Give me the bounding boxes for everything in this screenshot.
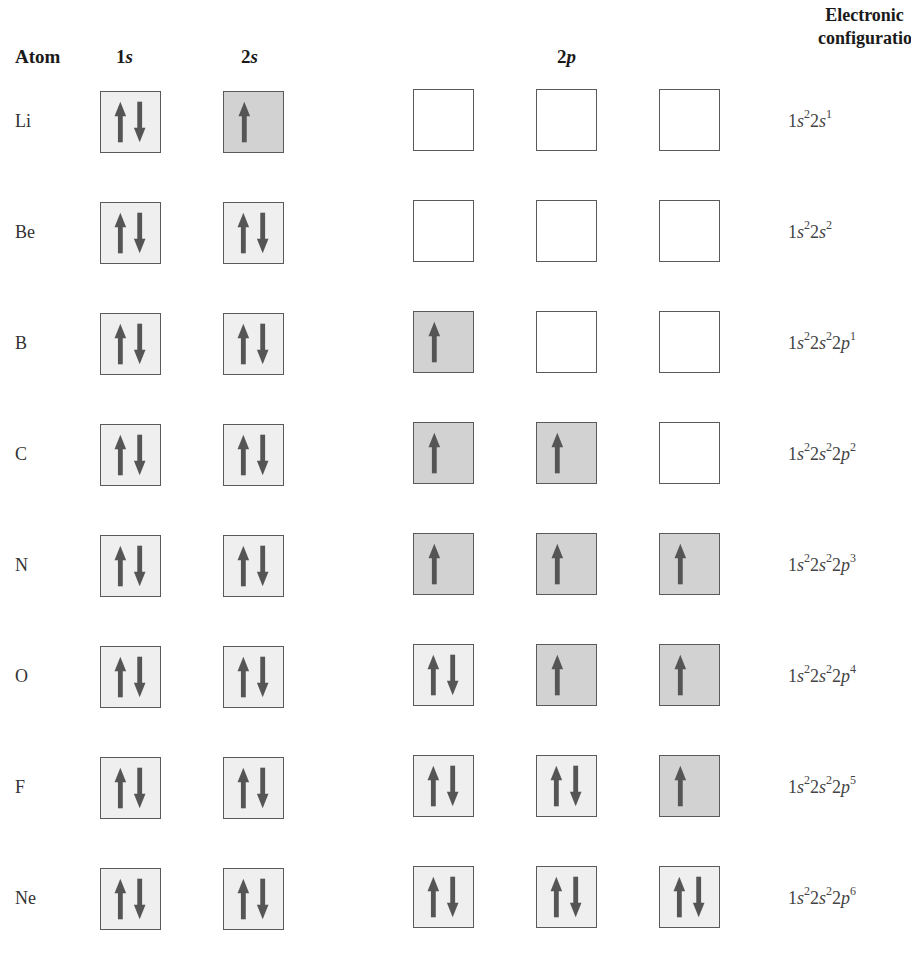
config-electron-count: 2 bbox=[804, 551, 810, 565]
spin-pair-arrows-icon bbox=[537, 756, 596, 816]
config-electron-count: 2 bbox=[850, 440, 856, 454]
orbital-box-2s bbox=[223, 424, 284, 486]
config-shell-number: 1 bbox=[788, 444, 797, 464]
spin-up-arrow-icon bbox=[537, 534, 596, 594]
orbital-box-2s bbox=[223, 535, 284, 597]
orbital-box-2s bbox=[223, 868, 284, 930]
config-electron-count: 2 bbox=[804, 218, 810, 232]
spin-pair-arrows-icon bbox=[224, 758, 283, 818]
orbital-box-2p-y bbox=[536, 311, 597, 373]
spin-pair-arrows-icon bbox=[414, 645, 473, 705]
orbital-box-2p-y bbox=[536, 755, 597, 817]
orbital-box-2p-y bbox=[536, 422, 597, 484]
spin-pair-arrows-icon bbox=[414, 867, 473, 927]
config-electron-count: 2 bbox=[826, 329, 832, 343]
config-shell-number: 2 bbox=[810, 444, 819, 464]
config-subshell-letter: s bbox=[797, 777, 804, 797]
config-shell-number: 2 bbox=[810, 666, 819, 686]
orbital-box-2p-z bbox=[659, 200, 720, 262]
spin-pair-arrows-icon bbox=[224, 647, 283, 707]
orbital-box-2s bbox=[223, 91, 284, 153]
spin-pair-arrows-icon bbox=[101, 758, 160, 818]
header-1s: 1s bbox=[116, 46, 133, 68]
orbital-box-2p-z bbox=[659, 311, 720, 373]
electronic-configuration: 1s22s2 bbox=[788, 220, 832, 243]
config-shell-number: 2 bbox=[810, 222, 819, 242]
orbital-box-2s bbox=[223, 202, 284, 264]
orbital-box-2p-y bbox=[536, 89, 597, 151]
config-shell-number: 2 bbox=[810, 555, 819, 575]
spin-pair-arrows-icon bbox=[101, 425, 160, 485]
spin-pair-arrows-icon bbox=[537, 867, 596, 927]
spin-pair-arrows-icon bbox=[101, 314, 160, 374]
header-2p-number: 2 bbox=[557, 46, 567, 67]
spin-up-arrow-icon bbox=[224, 92, 283, 152]
config-shell-number: 2 bbox=[832, 555, 841, 575]
config-electron-count: 2 bbox=[826, 551, 832, 565]
config-electron-count: 2 bbox=[804, 107, 810, 121]
orbital-box-1s bbox=[100, 868, 161, 930]
header-2s: 2s bbox=[241, 46, 258, 68]
config-subshell-letter: s bbox=[819, 111, 826, 131]
orbital-box-2p-x bbox=[413, 533, 474, 595]
orbital-box-2p-z bbox=[659, 422, 720, 484]
config-shell-number: 1 bbox=[788, 333, 797, 353]
orbital-box-2s bbox=[223, 757, 284, 819]
config-electron-count: 1 bbox=[850, 329, 856, 343]
config-subshell-letter: s bbox=[819, 888, 826, 908]
orbital-box-2p-x bbox=[413, 866, 474, 928]
config-electron-count: 2 bbox=[804, 329, 810, 343]
config-subshell-letter: s bbox=[797, 444, 804, 464]
spin-up-arrow-icon bbox=[537, 423, 596, 483]
orbital-box-1s bbox=[100, 535, 161, 597]
config-subshell-letter: s bbox=[797, 333, 804, 353]
orbital-box-2p-x bbox=[413, 311, 474, 373]
config-electron-count: 5 bbox=[850, 773, 856, 787]
config-subshell-letter: p bbox=[841, 333, 850, 353]
config-electron-count: 2 bbox=[826, 218, 832, 232]
atom-label: N bbox=[15, 555, 28, 576]
config-subshell-letter: p bbox=[841, 666, 850, 686]
atom-label: F bbox=[15, 777, 25, 798]
spin-pair-arrows-icon bbox=[224, 314, 283, 374]
config-shell-number: 2 bbox=[832, 333, 841, 353]
spin-up-arrow-icon bbox=[414, 423, 473, 483]
config-subshell-letter: s bbox=[819, 222, 826, 242]
config-shell-number: 2 bbox=[810, 111, 819, 131]
config-shell-number: 1 bbox=[788, 777, 797, 797]
atom-label: C bbox=[15, 444, 27, 465]
spin-pair-arrows-icon bbox=[101, 203, 160, 263]
config-electron-count: 3 bbox=[850, 551, 856, 565]
atom-label: O bbox=[15, 666, 28, 687]
header-1s-letter: s bbox=[126, 46, 133, 67]
orbital-box-1s bbox=[100, 424, 161, 486]
header-config-line1: Electronic bbox=[818, 4, 911, 27]
orbital-box-2p-x bbox=[413, 89, 474, 151]
spin-pair-arrows-icon bbox=[224, 425, 283, 485]
header-2p: 2p bbox=[557, 46, 576, 68]
config-subshell-letter: s bbox=[819, 555, 826, 575]
config-shell-number: 2 bbox=[832, 888, 841, 908]
config-subshell-letter: s bbox=[819, 666, 826, 686]
config-shell-number: 2 bbox=[832, 444, 841, 464]
config-subshell-letter: s bbox=[797, 555, 804, 575]
orbital-box-1s bbox=[100, 646, 161, 708]
electronic-configuration: 1s22s22p4 bbox=[788, 664, 856, 687]
config-subshell-letter: p bbox=[841, 777, 850, 797]
spin-pair-arrows-icon bbox=[101, 869, 160, 929]
spin-up-arrow-icon bbox=[660, 645, 719, 705]
header-atom: Atom bbox=[15, 46, 60, 68]
spin-pair-arrows-icon bbox=[414, 756, 473, 816]
config-electron-count: 2 bbox=[826, 440, 832, 454]
config-shell-number: 2 bbox=[810, 888, 819, 908]
orbital-box-2p-x bbox=[413, 755, 474, 817]
spin-up-arrow-icon bbox=[660, 756, 719, 816]
config-subshell-letter: s bbox=[797, 222, 804, 242]
config-subshell-letter: s bbox=[797, 111, 804, 131]
config-subshell-letter: p bbox=[841, 555, 850, 575]
electronic-configuration: 1s22s22p5 bbox=[788, 775, 856, 798]
config-electron-count: 2 bbox=[826, 884, 832, 898]
config-shell-number: 2 bbox=[810, 777, 819, 797]
orbital-box-2p-y bbox=[536, 200, 597, 262]
config-subshell-letter: s bbox=[797, 888, 804, 908]
